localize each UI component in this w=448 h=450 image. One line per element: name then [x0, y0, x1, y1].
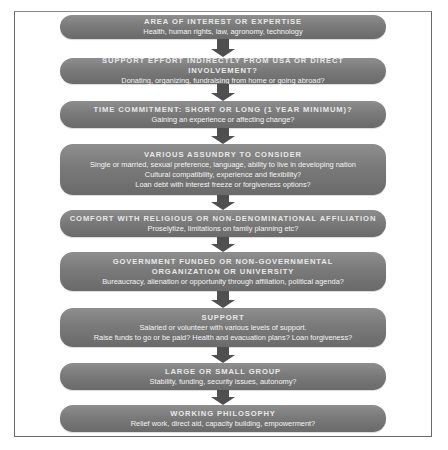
- step-detail: Relief work, direct aid, capacity buildi…: [66, 419, 380, 429]
- step-title: Working Philosophy: [66, 409, 380, 419]
- step-title: Support Effort Indirectly from USA or Di…: [66, 56, 380, 76]
- step-detail: Loan debt with interest freeze or forgiv…: [66, 180, 380, 190]
- step-title-line2: Organization or University: [66, 267, 380, 277]
- down-arrow-icon: [211, 195, 235, 210]
- down-arrow-icon: [211, 128, 235, 144]
- step-title: Time Commitment: Short or Long (1 Year M…: [66, 105, 380, 115]
- step-detail: Bureaucracy, alienation or opportunity t…: [66, 277, 380, 287]
- down-arrow-icon: [211, 347, 235, 363]
- step-title: Large or Small Group: [66, 367, 380, 377]
- step-religious-affiliation: Comfort with Religious or Non-Denominati…: [60, 210, 386, 237]
- step-title: Support: [66, 313, 380, 323]
- step-detail: Cultural compatibility, experience and f…: [66, 170, 380, 180]
- step-time-commitment: Time Commitment: Short or Long (1 Year M…: [60, 101, 386, 128]
- down-arrow-icon: [211, 84, 235, 101]
- step-support: Support Salaried or volunteer with vario…: [60, 308, 386, 347]
- step-detail: Health, human rights, law, agronomy, tec…: [66, 27, 380, 37]
- down-arrow-icon: [211, 39, 235, 57]
- step-title: Various Assundry to Consider: [66, 150, 380, 160]
- step-detail: Single or married, sexual preference, la…: [66, 160, 380, 170]
- step-support-effort: Support Effort Indirectly from USA or Di…: [60, 58, 386, 84]
- step-group-size: Large or Small Group Stability, funding,…: [60, 363, 386, 390]
- down-arrow-icon: [211, 390, 235, 405]
- step-detail: Gaining an experience or affecting chang…: [66, 115, 380, 125]
- down-arrow-icon: [211, 237, 235, 252]
- step-area-of-interest: Area of Interest or Expertise Health, hu…: [60, 15, 386, 39]
- step-detail: Salaried or volunteer with various level…: [66, 323, 380, 333]
- step-government-or-ngo: Government Funded or Non-Governmental Or…: [60, 252, 386, 291]
- step-title: Area of Interest or Expertise: [66, 17, 380, 27]
- step-detail: Raise funds to go or be paid? Health and…: [66, 333, 380, 343]
- step-detail: Proselytize, limitations on family plann…: [66, 224, 380, 234]
- step-title: Government Funded or Non-Governmental: [66, 257, 380, 267]
- step-working-philosophy: Working Philosophy Relief work, direct a…: [60, 405, 386, 432]
- step-detail: Stability, funding, security issues, aut…: [66, 377, 380, 387]
- step-various-assundry: Various Assundry to Consider Single or m…: [60, 144, 386, 195]
- step-title: Comfort with Religious or Non-Denominati…: [66, 214, 380, 224]
- down-arrow-icon: [211, 291, 235, 308]
